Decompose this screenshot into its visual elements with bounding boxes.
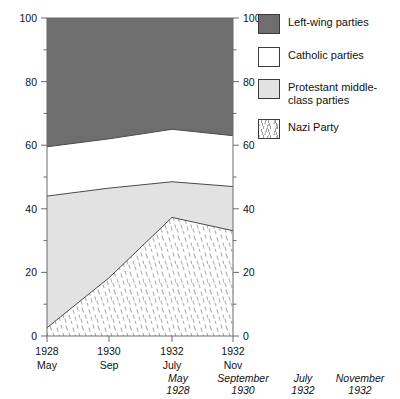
svg-text:80: 80 — [25, 76, 37, 88]
svg-text:May: May — [37, 359, 58, 371]
caption-month-july: July — [283, 372, 323, 384]
svg-text:1928: 1928 — [35, 345, 59, 357]
caption-year-1930: 1930 — [207, 384, 279, 396]
svg-text:1930: 1930 — [97, 345, 121, 357]
svg-text:40: 40 — [243, 203, 255, 215]
chart-legend: Left-wing parties Catholic parties Prote… — [258, 14, 400, 151]
svg-text:20: 20 — [25, 266, 37, 278]
caption-month-september: September — [207, 372, 279, 384]
svg-text:0: 0 — [243, 330, 249, 342]
legend-item-left-wing[interactable]: Left-wing parties — [258, 14, 400, 34]
svg-text:60: 60 — [243, 139, 255, 151]
x-axis-ticks — [47, 336, 233, 342]
legend-item-nazi[interactable]: Nazi Party — [258, 119, 400, 139]
svg-text:40: 40 — [25, 203, 37, 215]
legend-item-catholic[interactable]: Catholic parties — [258, 47, 400, 67]
svg-text:80: 80 — [243, 76, 255, 88]
caption-year-1932-july: 1932 — [283, 384, 323, 396]
y-axis-left-labels: 100 80 60 40 20 0 — [19, 12, 37, 342]
caption-month-may: May — [152, 372, 204, 384]
legend-swatch-catholic-icon — [258, 47, 280, 67]
y-axis-right-ticks — [233, 18, 239, 336]
svg-text:0: 0 — [31, 330, 37, 342]
legend-swatch-protestant-icon — [258, 79, 280, 99]
legend-swatch-nazi-icon — [258, 119, 280, 139]
svg-text:July: July — [163, 359, 182, 371]
caption-year-1932-november: 1932 — [327, 384, 393, 396]
svg-text:1932: 1932 — [221, 345, 245, 357]
caption-year-1928: 1928 — [152, 384, 204, 396]
legend-label-catholic: Catholic parties — [288, 47, 364, 62]
svg-text:Nov: Nov — [224, 359, 243, 371]
legend-item-protestant[interactable]: Protestant middle-class parties — [258, 79, 400, 106]
svg-text:Sep: Sep — [100, 359, 119, 371]
svg-text:20: 20 — [243, 266, 255, 278]
svg-text:60: 60 — [25, 139, 37, 151]
stacked-area-chart: 100 80 60 40 20 0 100 80 60 40 20 0 1928… — [0, 0, 400, 399]
legend-label-nazi: Nazi Party — [288, 119, 339, 134]
svg-text:1932: 1932 — [160, 345, 184, 357]
legend-swatch-left-wing-icon — [258, 14, 280, 34]
legend-label-protestant: Protestant middle-class parties — [288, 79, 400, 106]
x-axis-year-labels: 1928 1930 1932 1932 — [35, 345, 245, 357]
caption-month-november: November — [327, 372, 393, 384]
svg-text:100: 100 — [19, 12, 37, 24]
x-axis-month-labels: May Sep July Nov — [37, 359, 243, 371]
legend-label-left-wing: Left-wing parties — [288, 14, 369, 29]
y-axis-left-ticks — [41, 18, 47, 336]
